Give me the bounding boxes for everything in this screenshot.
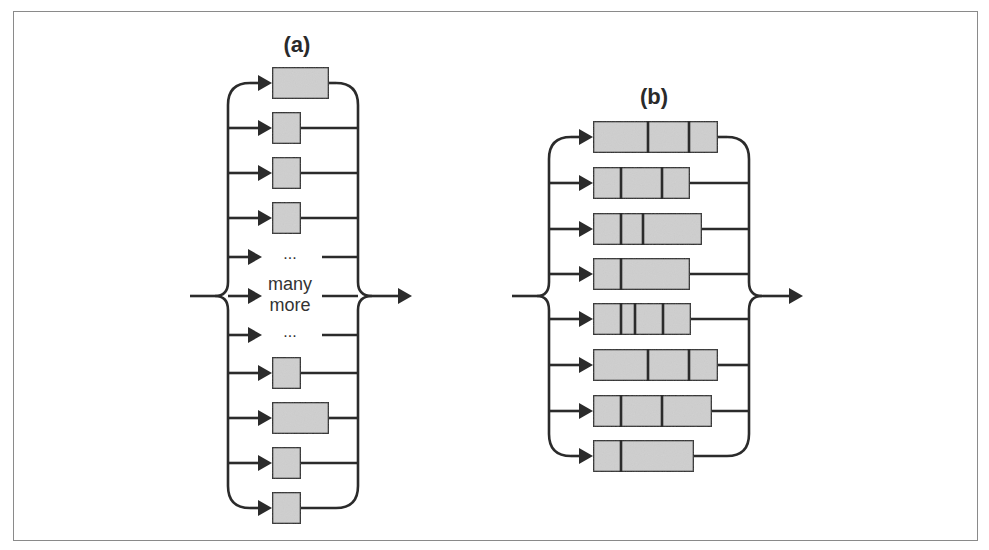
sequence-box [272,357,301,389]
branch-arrow-icon [579,311,593,327]
branch-arrow-icon [579,129,593,145]
sequence-box [593,213,702,245]
sequence-box [593,121,718,153]
ellipsis-text: ... [283,323,296,340]
sequence-box [593,349,718,381]
sequence-box [593,303,691,335]
branch-arrow-icon [258,365,272,381]
panel-label: (b) [640,84,668,109]
sequence-box [593,440,694,472]
branch-arrow-icon [248,249,262,265]
sequence-box [272,112,301,144]
panel-b-diagram: (b) [512,84,803,472]
sequence-box [593,258,690,290]
right-brace-upper [727,137,762,296]
sequence-box [272,447,301,479]
output-arrow-icon [789,288,803,304]
sequence-box [272,202,301,234]
sequence-box [593,167,690,199]
ellipsis-text: ... [283,245,296,262]
panel-label: (a) [284,32,311,57]
panel-a-diagram: (a)...manymore... [190,32,412,524]
branch-arrow-icon [579,357,593,373]
branch-arrow-icon [258,75,272,91]
sequence-box [272,492,301,524]
branch-arrow-icon [579,448,593,464]
railroad-diagram: (a)...manymore... (b) [0,0,989,550]
branch-arrow-icon [258,410,272,426]
left-brace-lower [215,296,250,508]
many-more-text: many [268,274,312,294]
branch-arrow-icon [579,403,593,419]
sequence-box [593,395,712,427]
branch-arrow-icon [258,455,272,471]
branch-arrow-icon [248,288,262,304]
branch-arrow-icon [579,221,593,237]
branch-arrow-icon [258,500,272,516]
sequence-box [272,157,301,189]
many-more-text: more [269,295,310,315]
right-brace-upper [336,83,372,296]
branch-arrow-icon [258,165,272,181]
branch-arrow-icon [579,266,593,282]
right-brace-lower [336,296,372,508]
sequence-box [272,67,329,99]
branch-arrow-icon [248,327,262,343]
sequence-box [272,402,329,434]
branch-arrow-icon [579,175,593,191]
output-arrow-icon [398,288,412,304]
left-brace-upper [215,83,250,296]
left-brace-upper [537,137,571,296]
branch-arrow-icon [258,210,272,226]
branch-arrow-icon [258,120,272,136]
